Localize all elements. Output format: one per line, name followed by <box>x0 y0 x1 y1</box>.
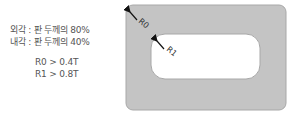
plate-diagram: R0 R1 <box>0 0 291 120</box>
plate-hole <box>151 34 260 79</box>
